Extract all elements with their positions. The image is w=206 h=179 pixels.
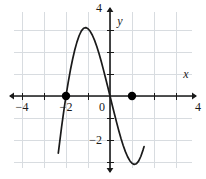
marked-point [62, 92, 70, 100]
x-tick-label: 0 [99, 100, 105, 114]
x-axis-label: x [182, 67, 189, 81]
x-tick-label: 4 [195, 100, 201, 114]
marked-point [128, 92, 136, 100]
y-tick-label: −4 [89, 177, 102, 179]
y-tick-label: −2 [89, 133, 102, 147]
x-tick-label: −2 [60, 100, 73, 114]
x-tick-label: −4 [16, 100, 29, 114]
y-axis-label: y [116, 14, 123, 28]
y-tick-label: 4 [96, 1, 102, 15]
coordinate-plane: −4−2044−2−4 x y [0, 0, 206, 179]
plot-background [0, 0, 206, 179]
graph-figure: −4−2044−2−4 x y [0, 0, 206, 179]
